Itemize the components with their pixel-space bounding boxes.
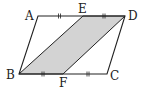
label-d: D	[128, 9, 138, 23]
label-c: C	[110, 69, 119, 83]
geometry-diagram: A E D B F C	[0, 0, 143, 93]
label-a: A	[24, 9, 34, 23]
label-e: E	[78, 2, 87, 16]
label-f: F	[59, 76, 67, 90]
label-b: B	[6, 68, 15, 82]
